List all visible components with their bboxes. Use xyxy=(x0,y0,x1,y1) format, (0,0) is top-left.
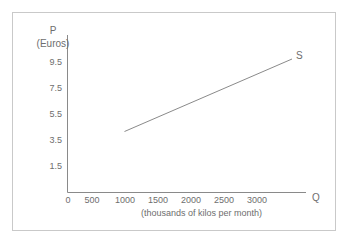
y-axis-title: P xyxy=(30,26,76,36)
y-tick-label: 9.5 xyxy=(28,58,62,67)
supply-curve-label: S xyxy=(296,51,303,61)
x-axis-caption: (thousands of kilos per month) xyxy=(141,209,262,218)
supply-curve-figure: P (Euros) 9.5 7.5 5.5 3.5 1.5 0 500 1000… xyxy=(0,0,349,245)
x-axis-title: Q xyxy=(312,193,320,203)
y-tick-label: 1.5 xyxy=(28,162,62,171)
y-axis-unit-label: (Euros) xyxy=(22,39,84,49)
y-tick-label: 7.5 xyxy=(28,84,62,93)
y-tick-label: 3.5 xyxy=(28,136,62,145)
y-tick-label: 5.5 xyxy=(28,110,62,119)
x-tick-label: 3000 xyxy=(237,196,277,205)
